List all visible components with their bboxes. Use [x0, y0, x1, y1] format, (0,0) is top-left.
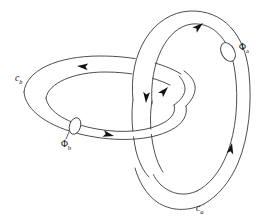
label-flux-b-subscript: b [68, 144, 71, 151]
linked-tori-diagram: cb ca Φa Φb [0, 0, 267, 221]
label-flux-b-symbol: Φ [61, 139, 68, 149]
label-loop-a-subscript: a [200, 208, 203, 215]
label-flux-a-subscript: a [246, 47, 249, 54]
figure-root: cb ca Φa Φb [0, 0, 267, 221]
label-loop-b-subscript: b [19, 78, 22, 85]
label-flux-a-symbol: Φ [239, 42, 246, 52]
